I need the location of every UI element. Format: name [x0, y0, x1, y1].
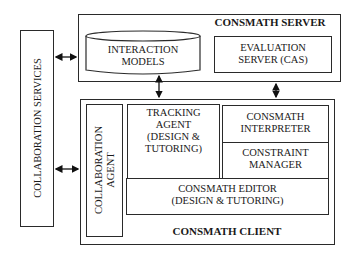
- editor-label: CONSMATH EDITOR (DESIGN & TUTORING): [126, 183, 329, 207]
- evaluation-server-label: EVALUATION SERVER (CAS): [214, 42, 332, 66]
- tracking-agent-label: TRACKING AGENT (DESIGN & TUTORING): [127, 107, 220, 155]
- interaction-models-label: INTERACTION MODELS: [86, 44, 200, 68]
- client-title: CONSMATH CLIENT: [126, 225, 328, 237]
- interpreter-label: CONSMATH INTERPRETER: [222, 111, 329, 135]
- server-title: CONSMATH SERVER: [200, 16, 340, 28]
- collaboration-services-label: COLLABORATION SERVICES: [32, 30, 44, 227]
- collaboration-agent-label: COLLABORATION AGENT: [93, 104, 117, 237]
- constraint-manager-label: CONSTRAINT MANAGER: [222, 147, 329, 171]
